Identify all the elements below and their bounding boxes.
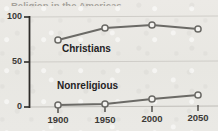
- gridlines: [29, 16, 218, 107]
- series-label-nonreligious: Nonreligious: [57, 80, 118, 91]
- data-point-christians-1950: [102, 25, 108, 31]
- data-point-christians-2050: [195, 26, 201, 32]
- plot-area: [0, 0, 218, 131]
- x-tick-label-1900: 1900: [41, 115, 75, 125]
- x-tick-label-2000: 2000: [135, 114, 169, 124]
- y-tick-label-100: 100: [0, 12, 22, 21]
- data-point-christians-1900: [55, 37, 61, 43]
- y-tick-label-0: 0: [0, 102, 22, 111]
- y-tick-label-50: 50: [0, 57, 22, 66]
- data-point-nonreligious-2050: [195, 92, 201, 98]
- data-point-christians-2000: [149, 22, 155, 28]
- x-tick-label-2050: 2050: [181, 113, 215, 123]
- series-christians-line: [55, 22, 201, 43]
- x-tick-label-1950: 1950: [88, 115, 122, 125]
- series-label-christians: Christians: [62, 43, 111, 54]
- data-point-nonreligious-1950: [102, 101, 108, 107]
- line-chart: Religion in the Americas: [0, 0, 218, 131]
- series-nonreligious-line: [55, 92, 201, 108]
- data-point-nonreligious-1900: [55, 102, 61, 108]
- axis-lines: [24, 16, 30, 108]
- data-point-nonreligious-2000: [149, 96, 155, 102]
